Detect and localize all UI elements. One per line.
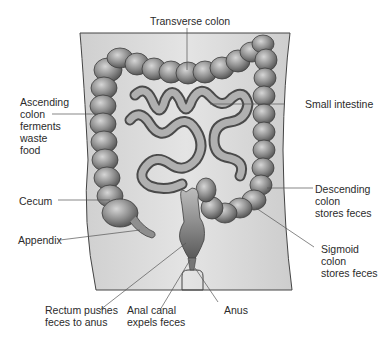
label-small-intestine: Small intestine: [305, 98, 373, 110]
label-sigmoid-colon: Sigmoid colon stores feces: [321, 243, 378, 279]
label-appendix: Appendix: [18, 234, 62, 246]
label-anal-canal: Anal canal expels feces: [127, 304, 185, 328]
label-rectum: Rectum pushes feces to anus: [45, 304, 118, 328]
label-cecum: Cecum: [19, 195, 52, 207]
intestine-diagram: Transverse colon Ascending colon ferment…: [0, 0, 391, 350]
label-descending-colon: Descending colon stores feces: [315, 183, 372, 219]
label-transverse-colon: Transverse colon: [150, 15, 230, 27]
anatomy-illustration: [0, 0, 391, 350]
label-anus: Anus: [224, 304, 248, 316]
label-ascending-colon: Ascending colon ferments waste food: [20, 96, 69, 156]
